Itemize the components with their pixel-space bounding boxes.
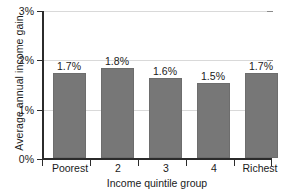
y-axis-line — [42, 11, 44, 160]
bar-value-poorest: 1.7% — [46, 61, 92, 72]
gridline-3pct — [42, 11, 272, 12]
bar-value-3: 1.6% — [142, 66, 188, 77]
y-tick-label-2pct: 2% — [19, 55, 34, 66]
bar-value-richest: 1.7% — [238, 61, 282, 72]
bar-4[interactable] — [197, 83, 230, 158]
bar-3[interactable] — [149, 78, 182, 158]
bar-chart: Average annual income gain 3% 2% 1% 0% 1… — [0, 0, 282, 193]
plot-area: 3% 2% 1% 0% 1.7% 1.8% 1.6% 1.5% 1.7% — [42, 11, 272, 160]
y-tick-2pct — [37, 60, 43, 61]
bar-value-4: 1.5% — [190, 71, 236, 82]
y-axis-title: Average annual income gain — [13, 8, 25, 158]
bar-value-2: 1.8% — [94, 56, 140, 67]
x-axis-line — [42, 158, 272, 160]
bar-2[interactable] — [101, 68, 134, 158]
y-tick-label-3pct: 3% — [19, 6, 34, 17]
y-tick-3pct — [37, 11, 43, 12]
bar-poorest[interactable] — [53, 73, 86, 158]
y-tick-label-0pct: 0% — [19, 154, 34, 165]
right-tick-3pct — [267, 11, 273, 12]
x-axis-label-richest: Richest — [228, 163, 282, 174]
y-tick-1pct — [37, 110, 43, 111]
bar-richest[interactable] — [245, 73, 278, 158]
y-tick-label-1pct: 1% — [19, 105, 34, 116]
x-axis-title: Income quintile group — [42, 177, 272, 189]
